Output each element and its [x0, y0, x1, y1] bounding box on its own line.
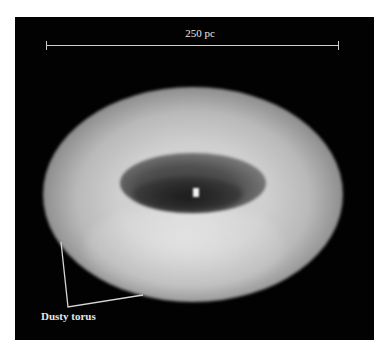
- image-panel: 250 pc Dusty torus: [15, 17, 374, 340]
- annotation-pointer-lines: [15, 17, 374, 340]
- dusty-torus-label: Dusty torus: [41, 310, 96, 322]
